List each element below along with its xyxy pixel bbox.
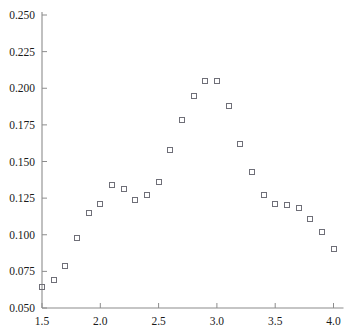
data-point xyxy=(261,193,266,198)
y-tick-label-2: 0.100 xyxy=(9,229,35,241)
data-point xyxy=(156,180,161,185)
data-point xyxy=(319,229,324,234)
y-tick-label-3: 0.125 xyxy=(9,192,35,204)
x-axis-group: 1.52.02.53.03.54.0 xyxy=(35,303,344,327)
x-tick-label-0: 1.5 xyxy=(35,315,50,327)
data-point xyxy=(273,201,278,206)
data-point xyxy=(98,201,103,206)
data-point xyxy=(109,182,114,187)
data-point xyxy=(144,193,149,198)
x-tick-label-4: 3.5 xyxy=(268,315,283,327)
y-tick-label-8: 0.250 xyxy=(9,9,35,21)
y-tick-labels: 0.0500.0750.1000.1250.1500.1750.2000.225… xyxy=(9,9,35,314)
y-tick-label-4: 0.150 xyxy=(9,156,35,168)
data-point xyxy=(179,118,184,123)
data-point xyxy=(51,278,56,283)
data-point xyxy=(168,147,173,152)
y-axis-group: 0.0500.0750.1000.1250.1500.1750.2000.225… xyxy=(9,9,47,314)
data-point-series xyxy=(40,78,337,290)
data-point xyxy=(214,78,219,83)
y-tick-label-7: 0.225 xyxy=(9,46,35,58)
data-point xyxy=(74,235,79,240)
data-point xyxy=(191,93,196,98)
data-point xyxy=(249,169,254,174)
data-point xyxy=(63,263,68,268)
y-tick-label-6: 0.200 xyxy=(9,82,35,94)
x-tick-label-1: 2.0 xyxy=(93,315,108,327)
data-point xyxy=(121,187,126,192)
data-point xyxy=(203,78,208,83)
plot-canvas: 0.0500.0750.1000.1250.1500.1750.2000.225… xyxy=(0,0,348,333)
data-point xyxy=(308,216,313,221)
x-tick-label-2: 2.5 xyxy=(151,315,166,327)
data-point xyxy=(284,203,289,208)
data-point xyxy=(226,103,231,108)
data-point xyxy=(86,210,91,215)
y-tick-label-0: 0.050 xyxy=(9,302,35,314)
y-tick-marks xyxy=(42,15,47,308)
scatter-plot-figure: 0.0500.0750.1000.1250.1500.1750.2000.225… xyxy=(0,0,348,333)
y-tick-label-5: 0.175 xyxy=(9,119,35,131)
data-point xyxy=(133,197,138,202)
x-tick-marks xyxy=(42,303,334,308)
x-tick-label-5: 4.0 xyxy=(326,315,341,327)
data-point xyxy=(296,206,301,211)
x-tick-label-3: 3.0 xyxy=(210,315,225,327)
y-tick-label-1: 0.075 xyxy=(9,265,35,277)
data-point xyxy=(238,141,243,146)
x-tick-labels: 1.52.02.53.03.54.0 xyxy=(35,315,341,327)
data-point xyxy=(331,247,336,252)
